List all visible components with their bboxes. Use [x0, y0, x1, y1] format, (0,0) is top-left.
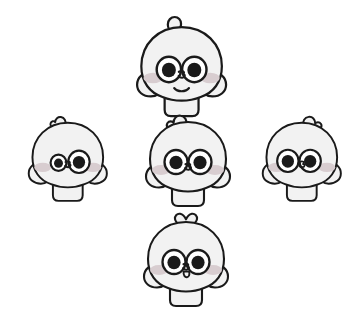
character-center-eye-right-pupil [193, 156, 206, 170]
character-center-eye-left-pupil [169, 156, 182, 170]
character-right-eye-right-pupil [304, 155, 316, 168]
character-bottom [126, 204, 246, 311]
character-left-figure [12, 106, 124, 210]
character-left [12, 106, 124, 210]
character-center-head [150, 122, 226, 192]
character-left-eye-left [51, 155, 67, 171]
character-center-figure [128, 104, 248, 216]
character-right-eye-left-pupil [282, 155, 294, 168]
character-bottom-figure [126, 204, 246, 311]
character-left-head [32, 123, 103, 188]
character-bottom-mouth-tongue [184, 271, 190, 277]
character-top-eye-left-pupil [162, 63, 176, 78]
character-top-eye-left [157, 57, 181, 82]
character-bottom-eye-right-pupil [191, 256, 204, 270]
character-center [128, 104, 248, 216]
character-right-eye-left [277, 150, 298, 172]
character-center-eye-right [189, 150, 212, 174]
character-center-eye-left [165, 150, 188, 174]
character-left-cheek-left [34, 163, 51, 172]
character-bottom-head [148, 222, 224, 292]
character-bottom-eye-left [163, 250, 186, 274]
character-left-eye-right [68, 151, 89, 173]
character-right-figure [246, 106, 342, 210]
character-left-eye-left-pupil [54, 159, 63, 168]
character-left-eye-right-pupil [73, 156, 85, 169]
character-bottom-eye-left-pupil [167, 256, 180, 270]
character-top-head [141, 27, 222, 101]
character-right [246, 106, 342, 210]
character-top-eye-right-pupil [187, 63, 201, 78]
character-top-eye-right [182, 57, 206, 82]
character-bottom-eye-right [187, 250, 210, 274]
